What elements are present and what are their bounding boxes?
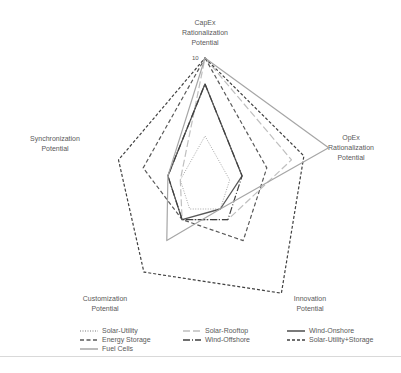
- axis-label-opex: OpExRationalizationPotential: [328, 134, 374, 161]
- series-fuel-cells: [167, 58, 329, 241]
- legend-label: Wind-Onshore: [309, 327, 354, 334]
- legend-item-wind-offshore: Wind-Offshore: [183, 336, 250, 343]
- radar-chart: CapExRationalizationPotentialOpExRationa…: [0, 0, 401, 373]
- legend-label: Solar-Utility+Storage: [309, 336, 373, 344]
- legend-item-solar-utility-storage: Solar-Utility+Storage: [287, 336, 373, 344]
- series-solar-utility-storage: [119, 58, 304, 293]
- legend-item-fuel-cells: Fuel Cells: [80, 345, 134, 352]
- legend-item-solar-utility: Solar-Utility: [80, 327, 138, 335]
- bottom-divider: [0, 356, 401, 357]
- legend-label: Solar-Utility: [102, 327, 138, 335]
- legend-item-solar-rooftop: Solar-Rooftop: [183, 327, 248, 335]
- legend-item-energy-storage: Energy Storage: [80, 336, 151, 344]
- axis-label-synchronization: SynchronizationPotential: [30, 135, 80, 152]
- axis-label-customization: CustomizationPotential: [83, 295, 127, 312]
- series-solar-utility: [180, 136, 229, 209]
- legend-item-wind-onshore: Wind-Onshore: [287, 327, 354, 334]
- legend-label: Energy Storage: [102, 336, 151, 344]
- legend-label: Fuel Cells: [102, 345, 134, 352]
- legend-label: Solar-Rooftop: [205, 327, 248, 335]
- axis-label-innovation: InnovationPotential: [294, 295, 326, 312]
- axis-label-capex: CapExRationalizationPotential: [182, 19, 228, 46]
- tick-label-max: 10: [192, 55, 199, 61]
- legend-label: Wind-Offshore: [205, 336, 250, 343]
